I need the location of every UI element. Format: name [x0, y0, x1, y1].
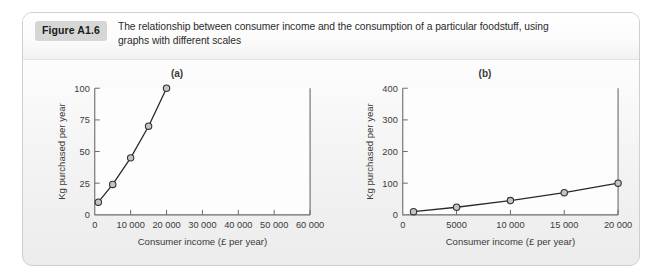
x-tick-label: 20 000 [152, 220, 180, 230]
y-tick-label: 100 [74, 84, 89, 94]
chart-a-plot: 0255075100010 00020 00030 00040 00050 00… [23, 60, 331, 266]
x-axis-title: Consumer income (£ per year) [138, 236, 267, 247]
x-tick-label: 60 000 [296, 220, 324, 230]
x-tick-label: 0 [92, 220, 97, 230]
data-point-marker [127, 155, 133, 161]
y-axis-title: Kg purchased per year [56, 102, 67, 199]
y-axis-title: Kg purchased per year [364, 102, 375, 199]
x-axis-title: Consumer income (£ per year) [446, 236, 575, 247]
caption-line-1: The relationship between consumer income… [118, 20, 625, 34]
x-tick-label: 10 000 [117, 220, 145, 230]
x-tick-label: 0 [400, 220, 405, 230]
data-point-marker [145, 123, 151, 129]
x-tick-label: 5000 [446, 220, 467, 230]
chart-b-plot: 01002003004000500010 00015 00020 000Cons… [331, 60, 639, 266]
data-point-marker [110, 181, 116, 187]
x-tick-label: 15 000 [550, 220, 578, 230]
figure-number-badge: Figure A1.6 [35, 21, 107, 41]
y-tick-label: 300 [382, 115, 397, 125]
chart-block-a: (a) 0255075100010 00020 00030 00040 0005… [23, 60, 331, 266]
figure-panel: Figure A1.6 The relationship between con… [22, 12, 640, 266]
y-tick-label: 200 [382, 147, 397, 157]
data-point-marker [410, 208, 416, 214]
x-tick-label: 10 000 [496, 220, 524, 230]
data-point-marker [453, 204, 459, 210]
plot-background [403, 88, 618, 215]
plot-background [95, 88, 310, 215]
data-point-marker [95, 199, 101, 205]
y-tick-label: 75 [79, 115, 89, 125]
data-point-marker [163, 85, 169, 91]
chart-block-b: (b) 01002003004000500010 00015 00020 000… [331, 60, 639, 266]
y-tick-label: 50 [79, 147, 89, 157]
x-tick-label: 30 000 [188, 220, 216, 230]
charts-row: (a) 0255075100010 00020 00030 00040 0005… [23, 60, 639, 266]
y-tick-label: 400 [382, 84, 397, 94]
data-point-marker [507, 197, 513, 203]
x-tick-label: 40 000 [224, 220, 252, 230]
y-tick-label: 25 [79, 179, 89, 189]
data-point-marker [615, 180, 621, 186]
caption-line-2: graphs with different scales [118, 34, 625, 48]
y-tick-label: 0 [85, 210, 90, 220]
figure-caption-bar: Figure A1.6 The relationship between con… [23, 13, 639, 60]
x-tick-label: 20 000 [604, 220, 632, 230]
figure-caption-text: The relationship between consumer income… [118, 20, 625, 47]
x-tick-label: 50 000 [260, 220, 288, 230]
data-point-marker [561, 189, 567, 195]
y-tick-label: 0 [393, 210, 398, 220]
y-tick-label: 100 [382, 179, 397, 189]
